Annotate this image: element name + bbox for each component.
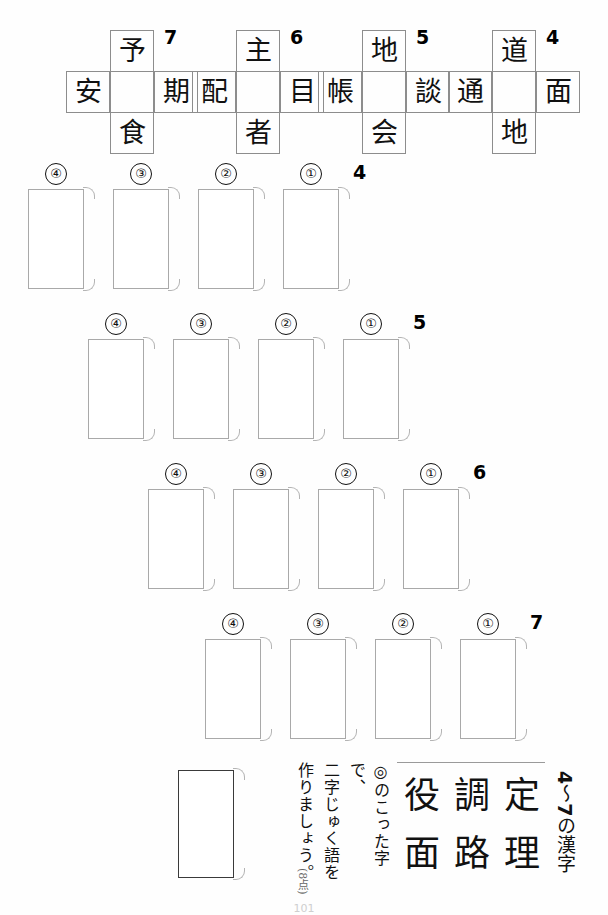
answer-box[interactable] [318,489,374,589]
answer-cell[interactable]: ③ [290,613,368,741]
answer-cell[interactable]: ① [343,313,421,441]
answer-row-number: 5 [413,311,426,333]
bracket-icon [145,337,155,441]
bracket-icon [517,637,527,741]
final-answer-box[interactable] [178,770,234,878]
answer-cell[interactable]: ① [460,613,538,741]
pool-divider [397,762,545,763]
bracket-icon [315,337,325,441]
answer-cell[interactable]: ② [198,163,276,291]
answer-cell[interactable]: ③ [233,463,311,591]
answer-box[interactable] [113,189,169,289]
pool-character: 定 [497,768,547,826]
bracket-icon [230,337,240,441]
answer-cell[interactable]: ③ [173,313,251,441]
answer-marker: ④ [45,163,67,185]
answer-cell[interactable]: ① [403,463,481,591]
points-label: (8点) [294,868,310,902]
cross-cell-right: 談 [406,71,450,113]
answer-cell[interactable]: ④ [148,463,226,591]
answer-box[interactable] [88,339,144,439]
pool-character: 理 [497,826,547,884]
answer-row-4: ④ ③ ② ① 4 [28,163,428,291]
answer-row-number: 4 [353,161,366,183]
pool-character: 面 [397,826,447,884]
pool-character: 役 [397,768,447,826]
cross-cell-right: 面 [536,71,580,113]
cross-puzzle-number: 6 [290,26,303,48]
answer-marker: ① [360,313,382,335]
answer-marker: ④ [165,463,187,485]
cross-puzzle-number: 7 [164,26,177,48]
cross-puzzle-6: 主 配 目 者 6 [192,30,324,158]
answer-cell[interactable]: ④ [28,163,106,291]
answer-row-6: ④ ③ ② ① 6 [148,463,548,591]
answer-box[interactable] [173,339,229,439]
cross-puzzle-number: 5 [416,26,429,48]
pool-character-grid: 役 調 定 面 路 理 [397,768,547,884]
cross-cell-center[interactable] [110,71,154,113]
cross-cell-bottom: 地 [492,112,536,154]
bracket-icon [347,637,357,741]
bracket-icon [85,187,95,291]
answer-cell[interactable]: ② [375,613,453,741]
worksheet-page: 予 安 期 食 7 主 配 目 者 6 地 帳 談 会 5 道 通 面 地 4 … [0,0,608,915]
answer-box[interactable] [233,489,289,589]
answer-box[interactable] [375,639,431,739]
cross-cell-left: 帳 [318,71,362,113]
answer-box[interactable] [343,339,399,439]
cross-puzzle-4: 道 通 面 地 4 [448,30,580,158]
cross-puzzle-number: 4 [546,26,559,48]
bracket-icon [375,487,385,591]
answer-box[interactable] [148,489,204,589]
kanji-pool: 役 調 定 面 路 理 4〜7の漢字 [397,762,552,888]
cross-cell-bottom: 者 [236,112,280,154]
answer-marker: ③ [250,463,272,485]
pool-character: 調 [447,768,497,826]
answer-marker: ④ [105,313,127,335]
cross-cell-top: 地 [362,30,406,72]
pool-heading-from: 4 [554,771,576,784]
answer-cell[interactable]: ④ [205,613,283,741]
answer-cell[interactable]: ④ [88,313,166,441]
answer-marker: ③ [130,163,152,185]
answer-marker: ② [275,313,297,335]
answer-cell[interactable]: ② [258,313,336,441]
cross-cell-top: 予 [110,30,154,72]
answer-marker: ① [300,163,322,185]
bracket-icon [432,637,442,741]
answer-marker: ③ [190,313,212,335]
answer-row-7: ④ ③ ② ① 7 [205,613,605,741]
cross-cell-top: 道 [492,30,536,72]
answer-box[interactable] [403,489,459,589]
cross-cell-left: 安 [66,71,110,113]
pool-heading-tail: の漢字 [554,816,576,873]
pool-heading-tilde: 〜 [554,784,576,803]
bracket-icon [235,768,245,880]
answer-box[interactable] [258,339,314,439]
answer-box[interactable] [28,189,84,289]
answer-marker: ④ [222,613,244,635]
cross-cell-center[interactable] [492,71,536,113]
answer-row-number: 6 [473,461,486,483]
answer-box[interactable] [290,639,346,739]
answer-box[interactable] [205,639,261,739]
answer-box[interactable] [460,639,516,739]
bracket-icon [255,187,265,291]
answer-cell[interactable]: ② [318,463,396,591]
pool-heading-to: 7 [554,803,576,816]
answer-box[interactable] [283,189,339,289]
bracket-icon [205,487,215,591]
answer-row-number: 7 [530,611,543,633]
final-answer-cell[interactable] [178,770,256,892]
answer-marker: ② [335,463,357,485]
cross-cell-center[interactable] [362,71,406,113]
cross-puzzle-7: 予 安 期 食 7 [66,30,198,158]
bracket-icon [340,187,350,291]
cross-cell-center[interactable] [236,71,280,113]
answer-cell[interactable]: ③ [113,163,191,291]
answer-marker: ② [392,613,414,635]
instruction-line-2: 二字じゅく語を [318,762,342,888]
answer-box[interactable] [198,189,254,289]
answer-cell[interactable]: ① [283,163,361,291]
